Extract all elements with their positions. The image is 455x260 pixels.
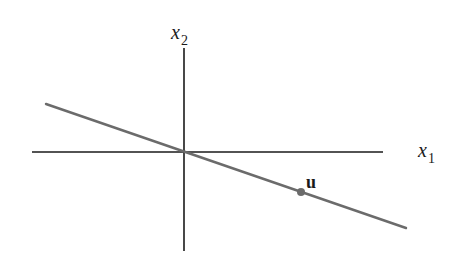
- x1-axis-label: x1: [417, 139, 435, 166]
- point-u: [297, 188, 305, 196]
- x2-axis-label: x2: [170, 21, 188, 48]
- coordinate-diagram: u x2 x1: [0, 0, 455, 260]
- point-u-label: u: [306, 172, 316, 192]
- line-through-origin: [46, 104, 406, 228]
